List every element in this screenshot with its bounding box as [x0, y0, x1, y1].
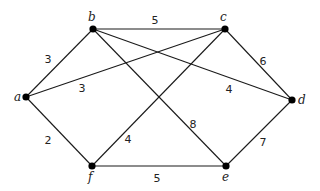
- weighted-graph-diagram: 3325486475 abcdef: [0, 0, 320, 191]
- edge-weight-c-d: 6: [260, 55, 267, 68]
- node-label-f: f: [87, 170, 95, 184]
- node-b: [89, 25, 96, 32]
- edge-weight-a-f: 2: [45, 134, 52, 147]
- edge-d-e: [226, 100, 292, 166]
- node-a: [22, 93, 29, 100]
- node-label-a: a: [14, 90, 21, 104]
- edge-b-e: [93, 29, 226, 166]
- edge-weight-a-b: 3: [45, 53, 52, 66]
- edge-weight-b-e: 8: [190, 118, 197, 131]
- edge-c-d: [225, 29, 292, 100]
- edge-weight-b-c: 5: [152, 14, 159, 27]
- edge-weight-c-f: 4: [125, 133, 132, 146]
- edge-weight-b-d: 4: [226, 83, 233, 96]
- node-label-c: c: [220, 10, 227, 24]
- edge-weight-a-c: 3: [79, 82, 86, 95]
- node-c: [221, 25, 228, 32]
- edge-weight-d-e: 7: [260, 136, 267, 149]
- node-label-e: e: [222, 170, 229, 184]
- node-labels-layer: abcdef: [14, 10, 306, 184]
- node-label-d: d: [298, 93, 306, 107]
- node-e: [222, 162, 229, 169]
- node-f: [88, 162, 95, 169]
- node-d: [288, 96, 295, 103]
- edge-a-f: [26, 97, 92, 166]
- node-label-b: b: [88, 10, 96, 24]
- edges-layer: [26, 29, 292, 166]
- edge-c-f: [92, 29, 225, 166]
- edge-weight-f-e: 5: [154, 172, 161, 185]
